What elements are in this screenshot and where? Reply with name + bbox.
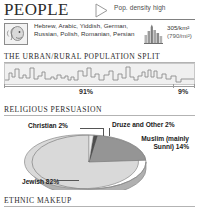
population-density-note: Pop. density high: [114, 4, 166, 11]
speaking-head-icon: [4, 23, 28, 45]
density-imperial: (790/mi²): [167, 32, 192, 40]
header-divider: [4, 19, 195, 20]
pie-label-jewish: Jewish 82%: [22, 178, 59, 186]
people-infographic-panel: PEOPLE Pop. density high Hebrew, Arabic,…: [0, 0, 199, 210]
jewish-leader-line: [57, 180, 79, 181]
urban-rural-axis: [4, 86, 195, 87]
axis-tick-left: [4, 84, 5, 88]
languages-list: Hebrew, Arabic, Yiddish, German, Russian…: [34, 22, 139, 38]
triangle-flag-icon: [95, 3, 108, 18]
axis-tick-right: [194, 84, 195, 88]
pie-label-christian: Christian 2%: [28, 122, 68, 130]
rural-percentage-label: 9%: [178, 88, 188, 95]
ethnic-makeup-heading: ETHNIC MAKEUP: [4, 196, 72, 205]
page-title: PEOPLE: [4, 0, 69, 19]
pie-label-druze: Druze and Other 2%: [112, 121, 175, 129]
city-buildings-icon: [144, 24, 163, 44]
druze-leader-drop: [109, 128, 110, 136]
population-density-value: 305/km² (790/mi²): [167, 24, 192, 40]
christian-leader-drop: [103, 128, 104, 136]
density-metric: 305/km²: [167, 24, 192, 32]
languages-density-row: Hebrew, Arabic, Yiddish, German, Russian…: [4, 23, 195, 49]
christian-leader-line: [80, 128, 103, 129]
urban-percentage-label: 91%: [79, 88, 93, 95]
urban-rural-heading: THE URBAN/RURAL POPULATION SPLIT: [4, 52, 160, 61]
pie-label-muslim: Muslim (mainly Sunni) 14%: [131, 135, 189, 151]
religious-persuasion-heading: RELIGIOUS PERSUASION: [4, 105, 102, 114]
axis-tick-split: [173, 84, 174, 88]
city-skyline-icon: [4, 63, 195, 85]
header: PEOPLE Pop. density high: [4, 1, 195, 21]
ethnic-makeup-divider: [4, 206, 195, 207]
